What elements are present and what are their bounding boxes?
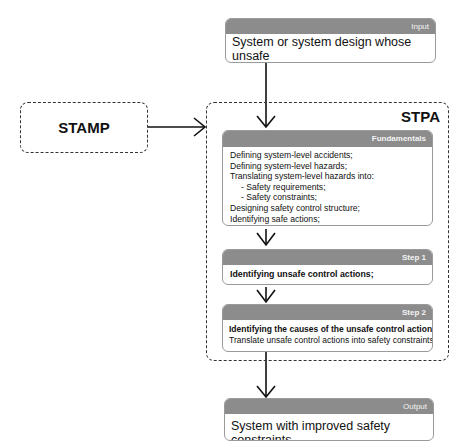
output-label: Output — [403, 402, 427, 411]
step1-label: Step 1 — [402, 253, 426, 262]
fundamentals-line: Defining system-level hazards; — [230, 161, 425, 172]
fundamentals-line: Translating system-level hazards into: — [230, 171, 425, 182]
step2-header: Step 2 — [223, 305, 432, 320]
step1-header: Step 1 — [223, 250, 432, 265]
output-box: Output System with improved safety const… — [224, 398, 434, 441]
fundamentals-box: Fundamentals Defining system-level accid… — [222, 130, 433, 226]
step1-line: Identifying unsafe control actions; — [230, 269, 425, 280]
step1-box: Step 1 Identifying unsafe control action… — [222, 249, 433, 285]
fundamentals-header: Fundamentals — [223, 131, 432, 147]
stamp-title: STAMP — [58, 119, 109, 136]
step2-label: Step 2 — [402, 308, 426, 317]
fundamentals-line: - Safety requirements; — [230, 182, 425, 193]
output-header: Output — [225, 399, 433, 414]
step2-line: Translate unsafe control actions into sa… — [229, 335, 426, 346]
fundamentals-line: - Safety constraints; — [230, 192, 425, 203]
fundamentals-line: Defining system-level accidents; — [230, 150, 425, 161]
input-header: Input — [226, 19, 435, 34]
input-box: Input System or system design whose unsa… — [225, 18, 436, 63]
fundamentals-label: Fundamentals — [372, 134, 426, 143]
step2-line: Identifying the causes of the unsafe con… — [229, 324, 426, 335]
output-text: System with improved safety constraints — [231, 419, 427, 441]
input-label: Input — [411, 22, 429, 31]
stpa-title: STPA — [401, 108, 440, 125]
step2-box: Step 2 Identifying the causes of the uns… — [222, 304, 433, 352]
input-text-line-1: System or system design whose unsafe — [232, 35, 429, 63]
fundamentals-line: Designing safety control structure; — [230, 203, 425, 214]
fundamentals-line: Identifying safe actions; — [230, 214, 425, 225]
stamp-box: STAMP — [20, 102, 148, 153]
